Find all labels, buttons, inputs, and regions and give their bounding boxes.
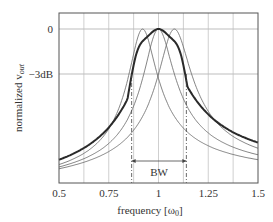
y-tick-0: 0: [48, 23, 54, 35]
x-tick-label: 1: [156, 187, 162, 199]
x-tick-label: 1.25: [199, 187, 219, 199]
x-tick-label: 1.5: [251, 187, 265, 199]
x-axis-ticks: 0.50.7511.251.5: [52, 187, 265, 199]
y-tick-3db: −3dB: [28, 68, 53, 80]
x-tick-label: 0.5: [52, 187, 66, 199]
grid: [59, 13, 258, 183]
resonator-chart: BW 0.50.7511.251.5 0 −3dB frequency [ω0]…: [0, 0, 273, 222]
y-axis-label: normalized vout: [12, 63, 26, 132]
bandwidth-label: BW: [150, 166, 168, 178]
x-axis-label: frequency [ω0]: [117, 204, 182, 218]
x-tick-label: 0.75: [99, 187, 119, 199]
